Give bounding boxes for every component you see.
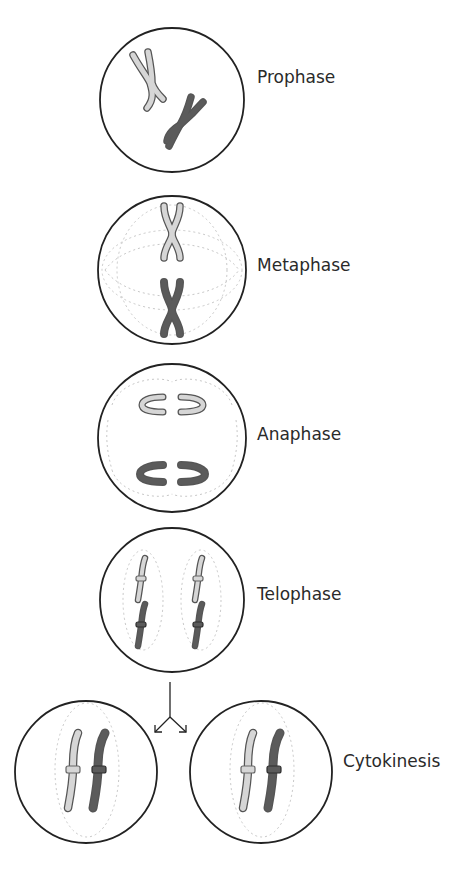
label-metaphase: Metaphase bbox=[257, 255, 351, 275]
stage-metaphase: Metaphase bbox=[98, 196, 351, 344]
mitosis-diagram: Prophase Metaphase bbox=[0, 0, 459, 874]
split-arrow-icon bbox=[155, 682, 186, 732]
daughter-cell-left bbox=[15, 701, 157, 843]
label-cytokinesis: Cytokinesis bbox=[343, 751, 440, 771]
cell-prophase bbox=[100, 28, 244, 172]
stage-anaphase: Anaphase bbox=[98, 364, 341, 512]
stage-cytokinesis: Cytokinesis bbox=[15, 701, 440, 843]
label-anaphase: Anaphase bbox=[257, 424, 341, 444]
label-prophase: Prophase bbox=[257, 67, 335, 87]
cell-telophase bbox=[100, 528, 244, 672]
label-telophase: Telophase bbox=[256, 584, 341, 604]
stage-telophase: Telophase bbox=[100, 528, 341, 672]
cell-cytokinesis-right bbox=[190, 701, 332, 843]
cell-cytokinesis-left bbox=[15, 701, 157, 843]
cell-metaphase bbox=[98, 196, 246, 344]
stage-prophase: Prophase bbox=[100, 28, 335, 172]
cell-anaphase bbox=[98, 364, 246, 512]
daughter-cell-right bbox=[190, 701, 332, 843]
